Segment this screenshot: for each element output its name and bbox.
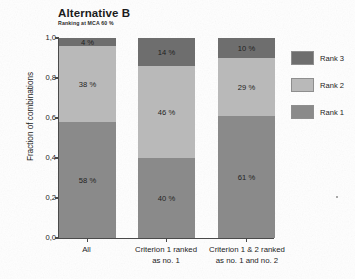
legend-item-rank3[interactable]: Rank 3 [291,51,344,65]
x-tick-mark-criterion1-2 [246,238,247,242]
bar-segment-value: 10 % [238,44,255,53]
x-axis-label-line: Criterion 1 & 2 ranked [204,245,290,256]
bar-segment-value: 61 % [238,173,255,182]
legend-swatch-rank2 [291,78,314,92]
bar-segment-rank1[interactable]: 61 % [218,116,275,238]
bar-segment-rank2[interactable]: 29 % [218,58,275,116]
bar-segment-rank2[interactable]: 46 % [138,66,195,158]
plot-area: 0,0 0,2 0,4 0,6 0,8 1,0 58 % [58,39,274,239]
x-axis-label-line: as no. 1 and no. 2 [204,256,290,267]
legend-item-rank1[interactable]: Rank 1 [291,105,344,119]
legend-label: Rank 3 [320,54,344,63]
bar-segment-rank2[interactable]: 38 % [59,46,116,122]
x-axis-label-all: All [56,245,117,256]
bar-all[interactable]: 58 % 38 % 4 % [59,38,116,238]
x-tick-mark-all [87,238,88,242]
bar-segment-value: 58 % [79,176,96,185]
legend-item-rank2[interactable]: Rank 2 [291,78,344,92]
legend-label: Rank 1 [320,108,344,117]
x-axis-label-criterion1-2: Criterion 1 & 2 ranked as no. 1 and no. … [204,245,290,266]
x-axis-label-line: All [56,245,117,256]
y-axis-title: Fraction of combinations [26,32,35,202]
title-block: Alternative B Ranking at MCA 60 % [58,7,208,27]
legend-swatch-rank1 [291,105,314,119]
bar-segment-value: 38 % [79,80,96,89]
bar-segment-value: 40 % [158,194,175,203]
scan-artifact-speck [336,196,338,198]
bar-segment-rank3[interactable]: 14 % [138,38,195,66]
bar-segment-value: 29 % [238,83,255,92]
chart-subtitle: Ranking at MCA 60 % [58,20,208,27]
bar-segment-rank3[interactable]: 4 % [59,38,116,46]
x-axis-label-line: Criterion 1 ranked [127,245,205,256]
stacked-bar-chart: Alternative B Ranking at MCA 60 % Fracti… [0,0,355,279]
bar-segment-rank3[interactable]: 10 % [218,38,275,58]
x-tick-mark-criterion1 [166,238,167,242]
bar-criterion1-ranked-no1[interactable]: 40 % 46 % 14 % [138,38,195,238]
bar-segment-value: 14 % [158,48,175,57]
legend: Rank 3 Rank 2 Rank 1 [291,51,344,119]
legend-label: Rank 2 [320,81,344,90]
x-axis-label-criterion1: Criterion 1 ranked as no. 1 [127,245,205,266]
bar-segment-rank1[interactable]: 58 % [59,122,116,238]
x-axis-label-line: as no. 1 [127,256,205,267]
bar-segment-value: 46 % [158,108,175,117]
bar-segment-rank1[interactable]: 40 % [138,158,195,238]
chart-title: Alternative B [58,7,208,19]
legend-swatch-rank3 [291,51,314,65]
bar-criterion1-2-ranked-no1-no2[interactable]: 61 % 29 % 10 % [218,38,275,238]
